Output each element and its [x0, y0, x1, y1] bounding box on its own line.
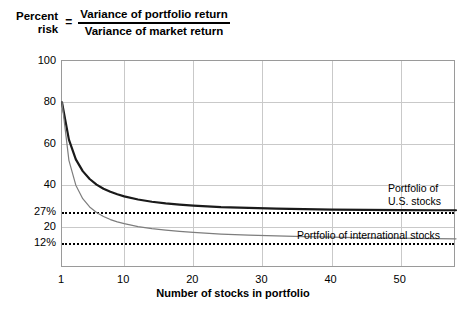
annotation-us-stocks: Portfolio of U.S. stocks	[388, 182, 441, 207]
formula-equals-sign: =	[65, 16, 72, 29]
formula-lhs-line2: risk	[16, 23, 58, 36]
y-tick-label-27pct: 27%	[0, 205, 56, 217]
x-tick-label-30: 30	[241, 273, 281, 285]
annotation-us-stocks-line2: U.S. stocks	[388, 195, 441, 208]
y-tick-label-40: 40	[0, 178, 56, 190]
series-line	[62, 102, 456, 238]
formula-denominator: Variance of market return	[83, 24, 226, 38]
annotation-international-stocks-line1: Portfolio of international stocks	[297, 229, 440, 242]
annotation-international-stocks: Portfolio of international stocks	[297, 229, 440, 242]
x-tick-label-1: 1	[41, 273, 81, 285]
y-tick-label-60: 60	[0, 137, 56, 149]
formula-left-side: Percent risk	[16, 10, 58, 36]
y-tick-label-100: 100	[0, 54, 56, 66]
y-tick-label-80: 80	[0, 95, 56, 107]
x-axis-title: Number of stocks in portfolio	[0, 287, 466, 299]
formula-numerator: Variance of portfolio return	[78, 8, 230, 22]
x-tick-label-50: 50	[380, 273, 420, 285]
annotation-us-stocks-line1: Portfolio of	[388, 182, 441, 195]
x-tick-label-40: 40	[311, 273, 351, 285]
formula-fraction: Variance of portfolio return Variance of…	[78, 8, 230, 38]
x-tick-label-10: 10	[103, 273, 143, 285]
x-tick-label-20: 20	[172, 273, 212, 285]
formula-lhs-line1: Percent	[16, 10, 58, 23]
y-tick-label-12pct: 12%	[0, 236, 56, 248]
y-tick-label-20: 20	[0, 220, 56, 232]
chart-figure: Percent risk = Variance of portfolio ret…	[0, 0, 466, 322]
formula-header: Percent risk = Variance of portfolio ret…	[16, 8, 230, 38]
